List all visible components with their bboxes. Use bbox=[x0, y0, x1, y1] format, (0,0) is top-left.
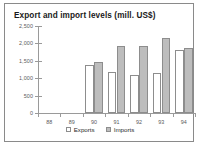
bar-exports-93 bbox=[153, 73, 162, 113]
x-tick-mark bbox=[38, 113, 39, 117]
bar-exports-92 bbox=[130, 75, 139, 113]
x-tick-label: 92 bbox=[136, 119, 142, 125]
bar-imports-90 bbox=[94, 62, 103, 114]
legend-label: Exports bbox=[74, 126, 95, 133]
legend-item-imports[interactable]: Imports bbox=[106, 126, 135, 133]
imports-swatch bbox=[106, 127, 111, 132]
y-tick-label: 500 bbox=[24, 93, 33, 99]
bar-imports-94 bbox=[184, 48, 193, 113]
y-tick-label: 1,500 bbox=[19, 58, 33, 64]
y-tick-label: 0 bbox=[30, 110, 33, 116]
bar-imports-92 bbox=[139, 46, 148, 113]
x-tick-label: 94 bbox=[181, 119, 187, 125]
y-tick-label: 2,000 bbox=[19, 40, 33, 46]
x-tick-label: 91 bbox=[114, 119, 120, 125]
bar-exports-91 bbox=[108, 72, 117, 113]
y-tick-mark bbox=[35, 43, 42, 44]
bar-exports-94 bbox=[175, 50, 184, 113]
bar-exports-90 bbox=[85, 65, 94, 113]
y-tick-mark bbox=[35, 61, 42, 62]
x-tick-mark bbox=[60, 113, 61, 117]
exports-swatch bbox=[66, 127, 71, 132]
legend-label: Imports bbox=[114, 126, 135, 133]
y-tick-mark bbox=[35, 96, 42, 97]
y-axis-line bbox=[38, 26, 39, 114]
chart-figure: Export and import levels (mill. US$) 050… bbox=[0, 0, 202, 152]
y-tick-label: 2,500 bbox=[19, 23, 33, 29]
x-tick-mark bbox=[150, 113, 151, 117]
chart-legend: ExportsImports bbox=[5, 126, 195, 133]
bar-imports-91 bbox=[117, 46, 126, 113]
legend-item-exports[interactable]: Exports bbox=[66, 126, 95, 133]
bar-imports-93 bbox=[162, 38, 171, 113]
plot-area: 05001,0001,5002,0002,500 88899091929394 bbox=[38, 26, 195, 114]
chart-card: Export and import levels (mill. US$) 050… bbox=[4, 3, 194, 142]
x-tick-mark bbox=[105, 113, 106, 117]
x-tick-label: 93 bbox=[158, 119, 164, 125]
y-tick-mark bbox=[35, 78, 42, 79]
x-tick-label: 89 bbox=[69, 119, 75, 125]
x-tick-label: 88 bbox=[46, 119, 52, 125]
x-tick-mark bbox=[128, 113, 129, 117]
x-tick-mark bbox=[83, 113, 84, 117]
x-tick-mark bbox=[195, 113, 196, 117]
y-tick-mark bbox=[35, 26, 42, 27]
y-tick-label: 1,000 bbox=[19, 75, 33, 81]
x-axis-line bbox=[38, 113, 195, 114]
chart-title: Export and import levels (mill. US$) bbox=[14, 11, 155, 20]
x-tick-label: 90 bbox=[91, 119, 97, 125]
x-tick-mark bbox=[173, 113, 174, 117]
